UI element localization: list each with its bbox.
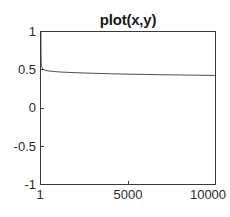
plot-area — [40, 31, 216, 185]
plot-canvas — [41, 32, 215, 184]
y-axis-tick-label-minus-1: -1 — [0, 178, 36, 191]
y-axis-tick-label-minus-0.5: -0.5 — [0, 140, 36, 153]
chart-title: plot(x,y) — [40, 12, 216, 28]
x-axis-tick-mark — [128, 181, 129, 185]
y-axis-tick-label-1: 1 — [0, 25, 36, 38]
x-axis-tick-label-5000: 5000 — [104, 188, 152, 202]
y-axis-tick-mark — [40, 146, 44, 147]
x-axis-tick-label-1: 1 — [32, 188, 48, 202]
y-axis-tick-label-0: 0 — [0, 101, 36, 114]
data-series-line — [41, 32, 215, 75]
y-axis-tick-mark — [40, 108, 44, 109]
chart-figure: plot(x,y) 1 0.5 0 -0.5 -1 1 5000 10000 — [0, 0, 230, 217]
x-axis-tick-label-10000: 10000 — [186, 188, 230, 202]
y-axis-tick-label-0.5: 0.5 — [0, 63, 36, 76]
y-axis-tick-mark — [40, 69, 44, 70]
